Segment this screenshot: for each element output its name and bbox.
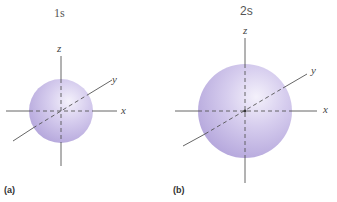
panel-b-2s-orbital	[175, 38, 317, 183]
z-axis-label-a: z	[57, 42, 61, 54]
y-axis-label-b: y	[311, 64, 316, 76]
y-axis-label-a: y	[112, 73, 117, 85]
orbital-diagram	[0, 0, 337, 202]
z-axis-label-b: z	[243, 24, 247, 36]
x-axis-label-b: x	[323, 103, 328, 115]
panel-tag-b: (b)	[173, 185, 185, 195]
panel-tag-a: (a)	[4, 185, 15, 195]
x-axis-label-a: x	[121, 104, 126, 116]
orbital-title-1s: 1s	[54, 6, 65, 21]
panel-a-1s-orbital	[6, 56, 117, 166]
orbital-title-2s: 2s	[240, 4, 253, 18]
